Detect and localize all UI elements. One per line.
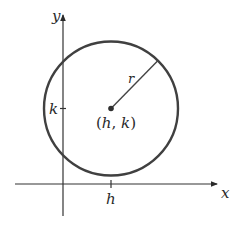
center-label-h: h [102, 114, 112, 132]
center-label: (h, k) [96, 114, 136, 132]
radius-label: r [128, 71, 135, 86]
k-tick-label: k [49, 100, 58, 118]
circle-diagram: y x k h r (h, k) [0, 0, 237, 226]
center-label-close: ) [130, 114, 136, 132]
center-label-comma: , [112, 114, 122, 132]
y-axis-label: y [51, 7, 61, 25]
x-axis-label: x [221, 184, 230, 202]
h-tick-label: h [106, 190, 116, 208]
radius-line [111, 61, 158, 109]
center-label-k: k [121, 114, 130, 132]
center-point [108, 106, 114, 112]
